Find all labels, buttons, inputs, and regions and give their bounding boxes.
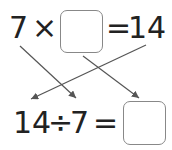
bottom-answer-box[interactable]: [123, 101, 166, 145]
bottom-dividend-14: 14: [13, 108, 51, 138]
arrow-7-to-divisor: [20, 46, 76, 98]
arrow-box-to-answer: [83, 56, 139, 98]
bottom-equals-sign: =: [93, 108, 118, 138]
bottom-divisor-7: 7: [70, 108, 89, 138]
